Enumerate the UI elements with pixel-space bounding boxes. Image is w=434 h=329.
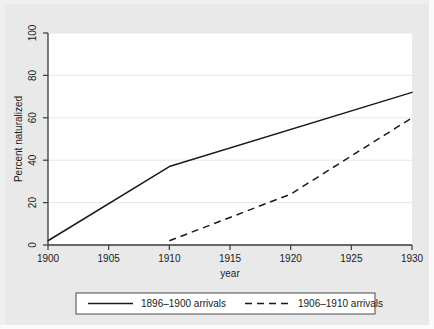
x-tick-label-1915: 1915 — [219, 253, 242, 264]
chart-figure: 0 20 40 60 80 100 Percent naturalized 19… — [0, 0, 434, 329]
x-tick-label-1905: 1905 — [98, 253, 121, 264]
y-tick-label-40: 40 — [27, 154, 38, 166]
x-tick-label-1900: 1900 — [37, 253, 60, 264]
x-tick-label-1910: 1910 — [158, 253, 181, 264]
x-tick-label-1920: 1920 — [280, 253, 303, 264]
x-axis-tick-labels: 1900 1905 1910 1915 1920 1925 1930 — [37, 253, 424, 264]
y-axis-title: Percent naturalized — [13, 96, 24, 182]
line-chart: 0 20 40 60 80 100 Percent naturalized 19… — [0, 0, 434, 329]
legend-label-2: 1906–1910 arrivals — [298, 298, 383, 309]
y-tick-label-0: 0 — [27, 242, 38, 248]
y-tick-label-80: 80 — [27, 69, 38, 81]
plot-area — [48, 33, 412, 245]
x-tick-label-1930: 1930 — [401, 253, 424, 264]
chart-legend: 1896–1900 arrivals 1906–1910 arrivals — [76, 293, 383, 314]
y-tick-label-100: 100 — [27, 24, 38, 41]
y-tick-label-20: 20 — [27, 197, 38, 209]
y-axis-ticks — [43, 33, 48, 245]
legend-label-1: 1896–1900 arrivals — [141, 298, 226, 309]
x-axis-title: year — [220, 268, 240, 279]
y-axis-tick-labels: 0 20 40 60 80 100 — [27, 24, 38, 248]
x-tick-label-1925: 1925 — [340, 253, 363, 264]
x-axis-ticks — [48, 245, 412, 250]
y-tick-label-60: 60 — [27, 112, 38, 124]
